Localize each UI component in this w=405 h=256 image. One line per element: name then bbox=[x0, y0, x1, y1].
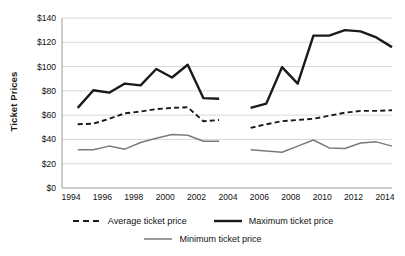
y-axis-title: Ticket Prices bbox=[8, 67, 19, 137]
series-line-average-ticket-price bbox=[251, 110, 392, 128]
legend-label-minimum: Minimum ticket price bbox=[179, 234, 261, 244]
series-line-maximum-ticket-price bbox=[251, 30, 392, 108]
gridlines bbox=[62, 18, 392, 164]
legend-row-bottom: Minimum ticket price bbox=[0, 234, 405, 244]
x-tick-label: 2008 bbox=[275, 192, 307, 202]
legend-item-maximum[interactable]: Maximum ticket price bbox=[213, 216, 334, 226]
series-line-average-ticket-price bbox=[78, 107, 219, 124]
series-line-minimum-ticket-price bbox=[78, 135, 219, 150]
y-tick-label: $60 bbox=[16, 110, 56, 120]
x-tick-label: 2012 bbox=[338, 192, 370, 202]
y-tick-label: $0 bbox=[16, 183, 56, 193]
y-tick-label: $80 bbox=[16, 86, 56, 96]
axis-lines bbox=[62, 18, 392, 188]
x-tick-label: 2014 bbox=[369, 192, 401, 202]
x-tick-label: 2004 bbox=[212, 192, 244, 202]
legend-item-minimum[interactable]: Minimum ticket price bbox=[143, 234, 261, 244]
legend-row-top: Average ticket price Maximum ticket pric… bbox=[0, 216, 405, 226]
legend-label-average: Average ticket price bbox=[108, 216, 187, 226]
series-line-minimum-ticket-price bbox=[251, 140, 392, 152]
x-tick-label: 2010 bbox=[306, 192, 338, 202]
y-tick-label: $100 bbox=[16, 62, 56, 72]
x-tick-label: 2000 bbox=[149, 192, 181, 202]
data-series-layer bbox=[78, 30, 392, 152]
x-tick-label: 1996 bbox=[86, 192, 118, 202]
series-line-maximum-ticket-price bbox=[78, 65, 219, 108]
y-tick-label: $140 bbox=[16, 13, 56, 23]
y-tick-label: $40 bbox=[16, 134, 56, 144]
legend-swatch-solid-thick bbox=[213, 216, 243, 226]
y-tick-label: $120 bbox=[16, 37, 56, 47]
y-tick-label: $20 bbox=[16, 159, 56, 169]
ticket-price-line-chart: Ticket Prices $140 $120 $100 $80 $60 $40… bbox=[0, 0, 405, 256]
x-tick-label: 2002 bbox=[181, 192, 213, 202]
legend-swatch-dashed bbox=[72, 216, 102, 226]
legend-item-average[interactable]: Average ticket price bbox=[72, 216, 187, 226]
legend-label-maximum: Maximum ticket price bbox=[249, 216, 334, 226]
x-tick-label: 1998 bbox=[118, 192, 150, 202]
x-tick-label: 1994 bbox=[55, 192, 87, 202]
legend-swatch-solid-thin bbox=[143, 234, 173, 244]
x-tick-label: 2006 bbox=[243, 192, 275, 202]
